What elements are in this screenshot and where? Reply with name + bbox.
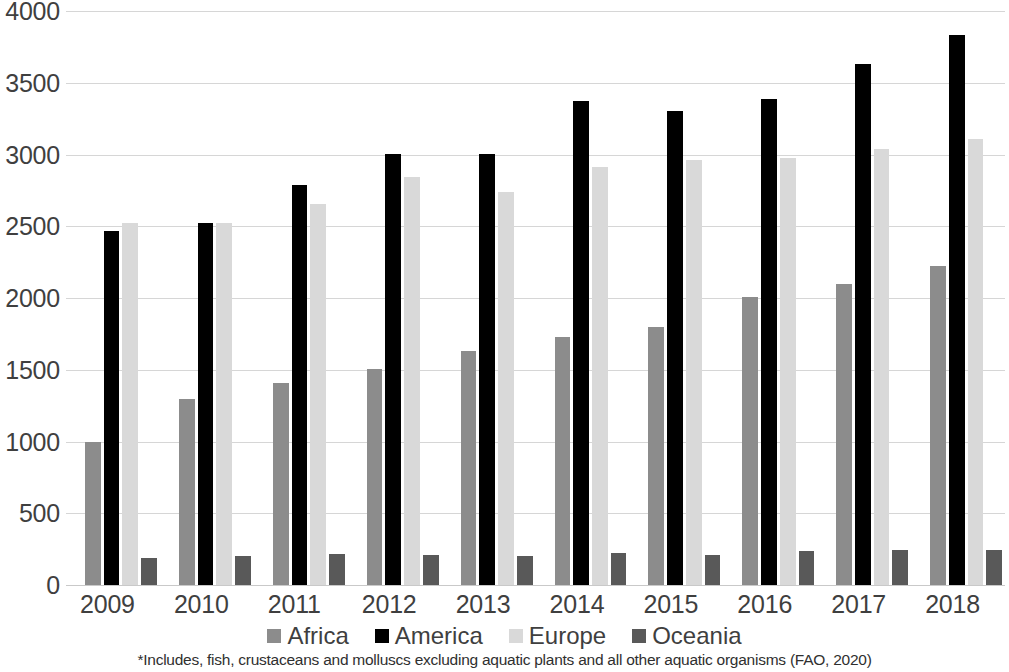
legend-label: America xyxy=(395,624,483,648)
y-axis-tick-label: 1000 xyxy=(2,429,60,454)
y-axis-tick-label: 2000 xyxy=(2,286,60,311)
y-axis-tick-label: 500 xyxy=(2,501,60,526)
bar-groups xyxy=(66,11,1005,585)
gridline xyxy=(66,585,1005,586)
y-axis-tick-label: 3000 xyxy=(2,142,60,167)
bar-group-bars xyxy=(723,11,817,585)
legend-item-africa: Africa xyxy=(267,624,348,648)
x-axis-tick-label: 2011 xyxy=(254,590,348,618)
legend-item-oceania: Oceania xyxy=(632,624,741,648)
bar-oceania-2012 xyxy=(423,555,439,585)
bar-group xyxy=(629,11,723,585)
bar-europe-2016 xyxy=(780,158,796,585)
bar-oceania-2015 xyxy=(705,555,721,585)
bar-europe-2011 xyxy=(310,204,326,585)
bar-oceania-2009 xyxy=(141,558,157,585)
bar-europe-2018 xyxy=(968,139,984,585)
bar-oceania-2010 xyxy=(235,556,251,585)
bar-group-bars xyxy=(348,11,442,585)
bar-europe-2010 xyxy=(216,223,232,585)
bar-oceania-2013 xyxy=(517,556,533,585)
y-axis-tick-label: 1500 xyxy=(2,357,60,382)
bar-oceania-2016 xyxy=(799,551,815,585)
bar-america-2012 xyxy=(385,154,401,585)
bar-africa-2011 xyxy=(273,383,289,585)
x-axis-tick-label: 2010 xyxy=(160,590,254,618)
x-axis-tick-labels: 2009201020112012201320142015201620172018 xyxy=(66,590,1005,618)
bar-europe-2015 xyxy=(686,160,702,585)
chart-footnote: *Includes, fish, crustaceans and mollusc… xyxy=(0,651,1009,669)
bar-oceania-2014 xyxy=(611,553,627,585)
bar-europe-2009 xyxy=(122,223,138,585)
bar-america-2016 xyxy=(761,99,777,585)
bar-america-2018 xyxy=(949,35,965,585)
bar-group-bars xyxy=(911,11,1005,585)
y-axis-tick-label: 2500 xyxy=(2,214,60,239)
bar-group xyxy=(348,11,442,585)
bar-africa-2018 xyxy=(930,266,946,585)
bar-group xyxy=(160,11,254,585)
bar-america-2010 xyxy=(198,223,214,585)
x-axis-tick-label: 2014 xyxy=(536,590,630,618)
legend-item-america: America xyxy=(375,624,483,648)
bar-group xyxy=(536,11,630,585)
legend-swatch-icon xyxy=(267,629,281,643)
bar-america-2011 xyxy=(292,185,308,585)
x-axis-tick-label: 2012 xyxy=(348,590,442,618)
bar-africa-2016 xyxy=(742,297,758,585)
bar-oceania-2017 xyxy=(892,550,908,585)
bar-oceania-2018 xyxy=(986,550,1002,585)
bar-africa-2017 xyxy=(836,284,852,585)
bar-africa-2010 xyxy=(179,399,195,585)
bar-africa-2015 xyxy=(648,327,664,585)
bar-group-bars xyxy=(817,11,911,585)
bar-europe-2013 xyxy=(498,192,514,585)
bar-america-2014 xyxy=(573,101,589,585)
bar-group xyxy=(817,11,911,585)
bar-chart: 05001000150020002500300035004000 2009201… xyxy=(0,0,1009,672)
bar-group xyxy=(66,11,160,585)
x-axis-tick-label: 2009 xyxy=(66,590,160,618)
bar-group-bars xyxy=(254,11,348,585)
bar-africa-2009 xyxy=(85,442,101,585)
x-axis-tick-label: 2013 xyxy=(442,590,536,618)
legend-label: Oceania xyxy=(652,624,741,648)
legend-swatch-icon xyxy=(375,629,389,643)
bar-group xyxy=(723,11,817,585)
bar-america-2013 xyxy=(479,154,495,585)
legend-item-europe: Europe xyxy=(509,624,606,648)
bar-europe-2012 xyxy=(404,177,420,585)
legend-swatch-icon xyxy=(509,629,523,643)
bar-africa-2013 xyxy=(461,351,477,585)
bar-america-2017 xyxy=(855,64,871,585)
legend-label: Europe xyxy=(529,624,606,648)
bar-europe-2014 xyxy=(592,167,608,585)
legend-label: Africa xyxy=(287,624,348,648)
bar-group xyxy=(254,11,348,585)
bar-group-bars xyxy=(442,11,536,585)
bar-europe-2017 xyxy=(874,149,890,585)
legend-swatch-icon xyxy=(632,629,646,643)
bar-america-2015 xyxy=(667,111,683,585)
x-axis-tick-label: 2018 xyxy=(911,590,1005,618)
bar-group-bars xyxy=(66,11,160,585)
bar-america-2009 xyxy=(104,231,120,585)
bar-africa-2012 xyxy=(367,369,383,585)
x-axis-tick-label: 2017 xyxy=(817,590,911,618)
y-axis-tick-label: 0 xyxy=(2,573,60,598)
bar-group-bars xyxy=(629,11,723,585)
bar-group xyxy=(911,11,1005,585)
y-axis-tick-labels: 05001000150020002500300035004000 xyxy=(0,0,60,672)
x-axis-tick-label: 2015 xyxy=(629,590,723,618)
bar-group-bars xyxy=(536,11,630,585)
y-axis-tick-label: 4000 xyxy=(2,0,60,24)
y-axis-tick-label: 3500 xyxy=(2,70,60,95)
x-axis-tick-label: 2016 xyxy=(723,590,817,618)
bar-oceania-2011 xyxy=(329,554,345,585)
chart-legend: AfricaAmericaEuropeOceania xyxy=(0,624,1009,648)
bar-africa-2014 xyxy=(555,337,571,585)
bar-group-bars xyxy=(160,11,254,585)
bar-group xyxy=(442,11,536,585)
